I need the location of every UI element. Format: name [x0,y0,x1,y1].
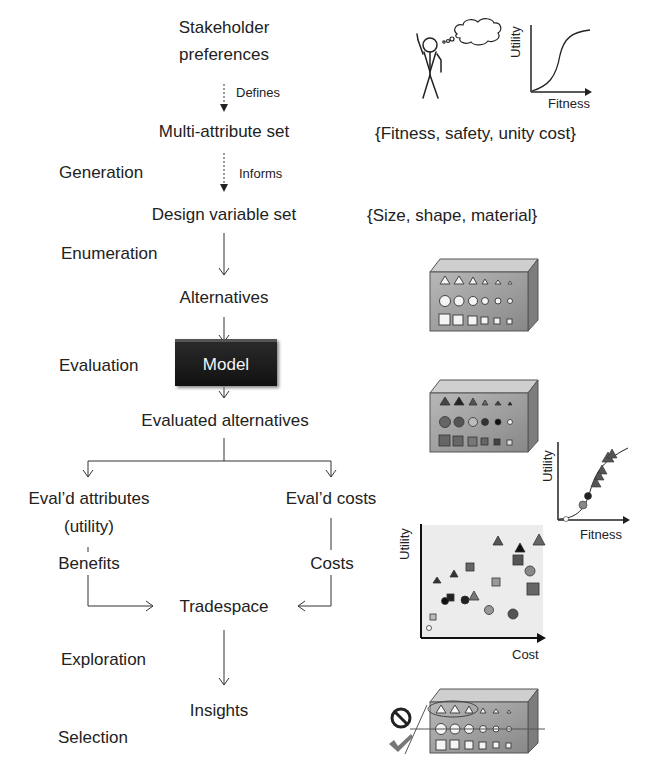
model-label: Model [175,355,277,375]
stage-evaluation: Evaluation [59,357,138,374]
utility-curve-chart [531,25,592,96]
node-evald-attributes-line1: Eval’d attributes [29,490,150,507]
node-tradespace: Tradespace [179,598,268,615]
tradespace-ylabel: Utility [398,528,411,560]
design-set-annotation: {Size, shape, material} [367,207,537,224]
selection-block [405,689,545,754]
split-connector [83,438,336,477]
edge-label-costs: Costs [310,555,353,572]
evaluated-curve-ylabel: Utility [541,450,554,482]
node-evald-costs: Eval’d costs [286,490,377,507]
attribute-set-annotation: {Fitness, safety, unity cost} [375,125,576,142]
model-to-evaluated-arrow [219,384,229,398]
evaluated-alternatives-block [430,380,538,452]
evaluated-utility-curve-chart [558,442,630,524]
exploration-arrow [219,630,229,685]
stage-enumeration: Enumeration [61,245,157,262]
utility-curve-xlabel: Fitness [548,97,590,110]
node-design-variable-set: Design variable set [152,206,297,223]
node-stakeholder-line1: Stakeholder [179,19,270,36]
edge-label-defines: Defines [236,86,280,99]
tradespace-scatter-plot [421,524,546,643]
thought-bubble-icon [443,19,501,45]
node-alternatives: Alternatives [180,289,269,306]
node-insights: Insights [190,702,249,719]
node-stakeholder-line2: preferences [179,46,269,63]
alternatives-block [430,259,538,331]
stage-selection: Selection [58,729,128,746]
node-evaluated-alternatives: Evaluated alternatives [141,412,308,429]
prohibited-icon [392,709,410,727]
stick-figure-icon [417,34,441,98]
informs-arrow [220,153,228,192]
evaluated-curve-xlabel: Fitness [580,528,622,541]
tradespace-xlabel: Cost [512,648,539,661]
stage-generation: Generation [59,164,143,181]
edge-label-benefits: Benefits [58,555,119,572]
node-multi-attribute-set: Multi-attribute set [159,123,289,140]
model-box: Model [175,339,277,386]
edge-label-informs: Informs [239,167,282,180]
node-evald-attributes-line2: (utility) [64,518,114,535]
enumeration-arrow [219,233,229,275]
defines-arrow [220,84,228,112]
stage-exploration: Exploration [61,651,146,668]
utility-curve-ylabel: Utility [509,26,522,58]
